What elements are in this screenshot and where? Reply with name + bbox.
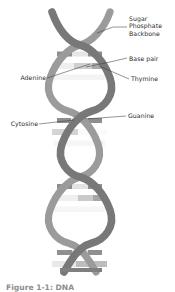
label-base-pair: Base pair — [129, 55, 158, 62]
dna-diagram-figure: Sugar Phosphate Backbone Base pair Adeni… — [0, 0, 175, 292]
label-cytosine: Cytosine — [2, 120, 38, 127]
base-pair-rung — [54, 75, 105, 81]
label-line: Sugar — [129, 15, 173, 22]
base-pair-rung — [54, 207, 105, 213]
label-thymine: Thymine — [131, 75, 158, 82]
leader-line-guanine — [86, 116, 126, 119]
label-adenine: Adenine — [6, 74, 46, 81]
helix-base-foot — [60, 268, 102, 272]
leader-line-base-pair — [110, 58, 127, 62]
dna-helix-illustration — [0, 0, 175, 292]
label-sugar-phosphate-backbone: Sugar Phosphate Backbone — [129, 15, 173, 37]
figure-caption: Figure 1-1: DNA — [6, 283, 74, 292]
label-guanine: Guanine — [128, 112, 154, 119]
label-line: Backbone — [129, 30, 173, 37]
label-line: Phosphate — [129, 22, 173, 29]
base-pair-rung — [52, 129, 107, 135]
base-pair-rung — [52, 261, 107, 267]
